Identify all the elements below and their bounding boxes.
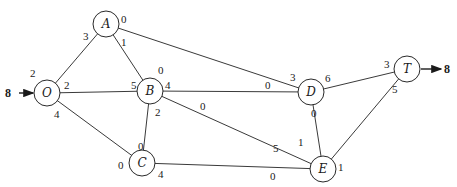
- node-O-label: O: [42, 86, 52, 100]
- cap-B-E-at-B: 0: [200, 100, 206, 112]
- edge-A-D: [106, 24, 311, 92]
- cap-C-E-at-E: 0: [270, 170, 276, 182]
- source-flow-value: 8: [5, 86, 11, 100]
- node-A-label: A: [101, 17, 111, 31]
- node-C-label: C: [137, 156, 146, 170]
- edge-B-D: [150, 91, 311, 92]
- cap-B-C-at-B: 2: [155, 106, 161, 118]
- cap-B-E-at-E: 5: [273, 142, 279, 154]
- cap-D-E-at-E: 1: [298, 136, 304, 148]
- cap-D-E-at-D: 0: [311, 107, 317, 119]
- edge-C-E: [142, 163, 323, 169]
- cap-O-C-at-C: 0: [118, 159, 124, 171]
- node-T-label: T: [403, 62, 412, 76]
- flow-network-diagram: 8 8 A O B C D E T 2 3 2 5 4 0 1 0 0 3 2 …: [0, 0, 457, 187]
- node-B-label: B: [145, 84, 155, 98]
- cap-E-T-at-E: 1: [338, 161, 344, 173]
- node-D: D: [298, 79, 324, 105]
- cap-O-B-at-B: 5: [131, 79, 137, 91]
- edge-O-B: [47, 91, 150, 93]
- cap-E-T-at-T: 5: [392, 83, 398, 95]
- node-O: O: [34, 80, 60, 106]
- cap-O-C-at-O: 4: [54, 108, 60, 120]
- sink-flow-value: 8: [444, 62, 450, 76]
- node-E: E: [310, 156, 336, 182]
- cap-D-T-at-T: 3: [384, 58, 390, 70]
- cap-D-T-at-D: 6: [325, 72, 331, 84]
- cap-B-D-at-D: 0: [265, 79, 271, 91]
- cap-A-D-at-A: 0: [121, 13, 127, 25]
- edge-B-E: [150, 91, 323, 169]
- node-A: A: [93, 11, 119, 37]
- node-B: B: [137, 78, 163, 104]
- edge-O-C: [47, 93, 142, 163]
- node-D-label: D: [305, 85, 316, 99]
- cap-O-A-at-A: 3: [83, 30, 89, 42]
- cap-B-C-at-C: 0: [138, 140, 144, 152]
- cap-A-B-at-B: 0: [158, 64, 164, 76]
- cap-A-D-at-D: 3: [290, 71, 296, 83]
- edge-O-A: [47, 24, 106, 93]
- cap-A-B-at-A: 1: [121, 36, 127, 48]
- cap-O-B-at-O: 2: [64, 79, 70, 91]
- node-T: T: [394, 56, 420, 82]
- cap-O-A-at-O: 2: [30, 67, 36, 79]
- cap-B-D-at-B: 4: [165, 79, 171, 91]
- node-E-label: E: [318, 162, 328, 176]
- node-C: C: [129, 150, 155, 176]
- cap-C-E-at-C: 4: [158, 168, 164, 180]
